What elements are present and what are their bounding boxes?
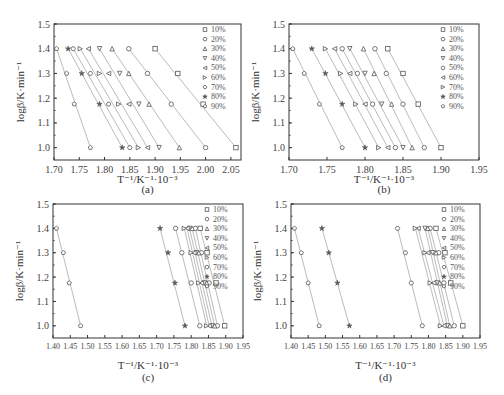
y-tick-label: 1.5 [273, 19, 286, 30]
x-tick-label: 1.90 [432, 164, 450, 175]
legend-label: 80% [450, 272, 465, 281]
y-tick-label: 1.3 [38, 68, 51, 79]
legend-label: 50% [213, 243, 228, 252]
panel-label: (c) [142, 371, 155, 384]
fit-line [112, 49, 179, 148]
fit-line [56, 228, 80, 325]
x-tick-label: 1.55 [336, 342, 350, 351]
legend-label: 80% [213, 272, 228, 281]
x-tick-label: 1.60 [353, 342, 367, 351]
fit-line [398, 228, 423, 325]
legend-label: 60% [450, 253, 465, 262]
x-tick-label: 2.05 [222, 164, 240, 175]
legend-label: 50% [211, 63, 226, 72]
x-tick-label: 1.80 [96, 164, 114, 175]
x-tick-label: 1.80 [421, 342, 435, 351]
fit-line [160, 228, 185, 325]
y-axis-title: logβ/K·min⁻¹ [249, 62, 261, 123]
fit-line [68, 49, 122, 148]
fit-line [335, 49, 388, 148]
y-tick-label: 1.1 [273, 117, 286, 128]
y-tick-label: 1.1 [37, 296, 50, 307]
fit-line [187, 228, 209, 325]
legend-label: 90% [213, 282, 228, 291]
fit-line [88, 49, 147, 148]
y-axis-title: logβ/K·min⁻¹ [14, 62, 26, 123]
y-axis-title: logβ/K·min⁻¹ [251, 241, 263, 302]
legend-label: 20% [450, 215, 465, 224]
legend-label: 20% [449, 35, 464, 44]
panel-label: (a) [141, 183, 154, 196]
fit-line [388, 49, 441, 148]
x-tick-label: 1.75 [404, 342, 418, 351]
y-tick-label: 1.1 [38, 117, 51, 128]
y-tick-label: 1.4 [37, 223, 50, 234]
x-tick-label: 1.50 [81, 342, 95, 351]
y-tick-label: 1.3 [273, 68, 286, 79]
x-tick-label: 1.90 [456, 342, 470, 351]
figure: 1.01.11.21.31.41.51.701.751.801.851.901.… [0, 0, 504, 395]
panel-label: (b) [378, 183, 391, 196]
chart-panel-a: 1.01.11.21.31.41.51.701.751.801.851.901.… [14, 19, 241, 197]
x-tick-label: 1.80 [184, 342, 198, 351]
x-tick-label: 1.75 [71, 164, 89, 175]
legend-label: 60% [449, 73, 464, 82]
x-tick-label: 1.70 [45, 164, 63, 175]
y-tick-label: 1.1 [275, 296, 288, 307]
x-tick-label: 1.75 [167, 342, 181, 351]
fit-line [415, 228, 440, 325]
x-axis-title: T⁻¹/K⁻¹·10⁻³ [118, 359, 179, 371]
legend-label: 40% [449, 54, 464, 63]
legend: 10%20%30%40%50%60%70%80%90% [442, 205, 465, 291]
legend-label: 30% [449, 44, 464, 53]
legend-label: 10% [449, 25, 464, 34]
x-tick-label: 1.50 [318, 342, 332, 351]
legend-label: 50% [450, 243, 465, 252]
legend-label: 80% [211, 92, 226, 101]
chart-panel-c: 1.01.11.21.31.41.51.401.451.501.551.601.… [13, 199, 250, 385]
y-tick-label: 1.3 [275, 247, 288, 258]
legend-label: 20% [211, 35, 226, 44]
x-tick-label: 1.40 [284, 342, 298, 351]
y-tick-label: 1.5 [37, 199, 50, 210]
y-tick-label: 1.0 [275, 320, 288, 331]
legend: 10%20%30%40%50%60%70%80%90% [441, 25, 464, 111]
x-tick-label: 1.95 [473, 342, 487, 351]
y-tick-label: 1.4 [275, 223, 288, 234]
x-tick-label: 1.90 [219, 342, 233, 351]
x-tick-label: 1.65 [370, 342, 384, 351]
x-tick-label: 1.70 [387, 342, 401, 351]
fit-line [294, 228, 319, 325]
x-tick-label: 1.85 [439, 342, 453, 351]
legend-label: 30% [450, 224, 465, 233]
fit-line [293, 49, 342, 148]
y-axis-title: logβ/K·min⁻¹ [13, 241, 25, 302]
y-tick-label: 1.2 [38, 93, 51, 104]
legend-label: 10% [211, 25, 226, 34]
x-tick-label: 1.55 [98, 342, 112, 351]
legend: 10%20%30%40%50%60%70%80%90% [203, 25, 226, 111]
y-tick-label: 1.5 [38, 19, 51, 30]
legend-label: 40% [450, 234, 465, 243]
legend: 10%20%30%40%50%60%70%80%90% [205, 205, 228, 291]
legend-label: 70% [450, 263, 465, 272]
fit-line [350, 49, 403, 148]
y-tick-label: 1.2 [273, 93, 286, 104]
x-tick-label: 1.75 [318, 164, 336, 175]
fit-line [375, 49, 424, 148]
legend-label: 40% [211, 54, 226, 63]
y-tick-label: 1.4 [273, 43, 286, 54]
legend-label: 60% [213, 253, 228, 262]
legend-label: 90% [450, 282, 465, 291]
x-tick-label: 1.95 [236, 342, 250, 351]
legend-label: 90% [211, 102, 226, 111]
y-tick-label: 1.2 [275, 272, 288, 283]
y-tick-label: 1.0 [273, 142, 286, 153]
legend-label: 30% [213, 224, 228, 233]
y-tick-label: 1.0 [37, 320, 50, 331]
legend-label: 80% [449, 92, 464, 101]
x-tick-label: 2.00 [197, 164, 215, 175]
fit-line [57, 49, 91, 148]
x-tick-label: 1.95 [470, 164, 488, 175]
y-tick-label: 1.3 [37, 247, 50, 258]
